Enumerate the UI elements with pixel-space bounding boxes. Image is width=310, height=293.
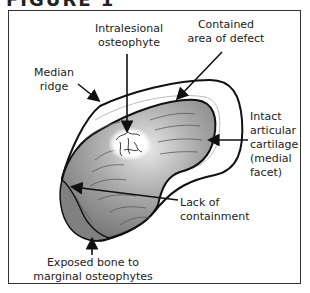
intralesional-osteophyte: [108, 127, 152, 161]
label-median-ridge: Median ridge: [34, 66, 74, 94]
leader-median-ridge: [78, 84, 98, 100]
label-contained-area-of-defect: Contained area of defect: [184, 18, 268, 46]
label-lack-of-containment: Lack of containment: [180, 196, 260, 224]
label-intralesional-osteophyte: Intralesional osteophyte: [92, 22, 166, 50]
label-exposed-bone: Exposed bone to marginal osteophytes: [32, 256, 154, 284]
label-intact-articular-cartilage: Intact articular cartilage (medial facet…: [250, 110, 302, 180]
